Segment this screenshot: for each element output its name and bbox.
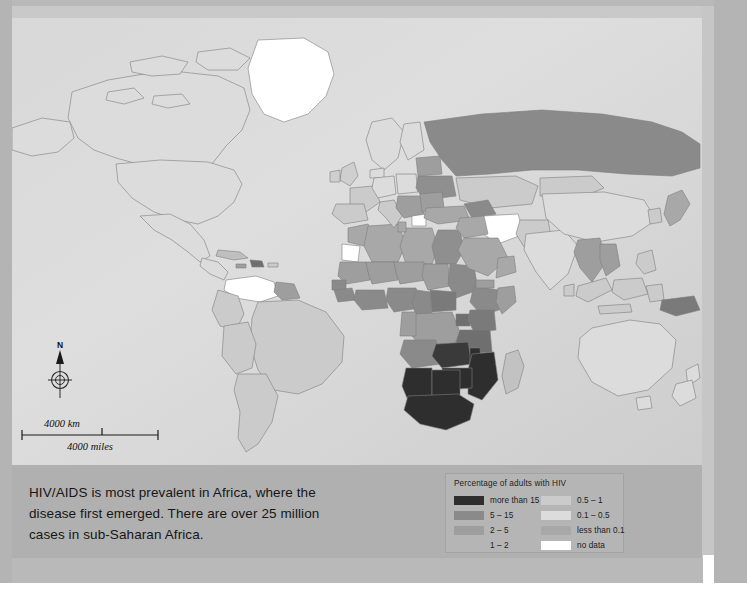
country-sri-lanka xyxy=(564,284,574,296)
legend-item: 0.5 – 1 xyxy=(541,493,625,507)
legend-label: 2 – 5 xyxy=(490,526,509,535)
legend-item: no data xyxy=(541,538,625,552)
country-western-sahara xyxy=(342,244,360,262)
country-chad xyxy=(422,264,450,290)
legend-swatch xyxy=(541,541,571,550)
country-kenya xyxy=(468,310,496,332)
island-jamaica xyxy=(236,264,246,268)
island-java xyxy=(598,304,632,314)
country-botswana xyxy=(432,370,460,396)
caption-line-1: HIV/AIDS is most prevalent in Africa, wh… xyxy=(29,482,369,503)
legend-swatch xyxy=(541,511,571,520)
legend-swatch xyxy=(454,526,484,535)
legend-item: 5 – 15 xyxy=(454,508,539,522)
frame-right-outer xyxy=(714,0,747,583)
country-tasmania xyxy=(636,396,652,410)
country-guinea xyxy=(334,288,356,302)
country-poland xyxy=(396,174,418,194)
country-central-african-rep xyxy=(430,290,456,312)
legend-title: Percentage of adults with HIV xyxy=(454,479,566,488)
legend-swatch xyxy=(454,496,484,505)
country-niger xyxy=(394,262,426,284)
page-bottom-margin xyxy=(0,583,747,597)
scale-km-label: 4000 km xyxy=(44,418,80,429)
island-hispaniola xyxy=(250,260,264,267)
legend-label: more than 15 xyxy=(490,496,539,505)
country-ireland xyxy=(330,170,340,182)
page-right-notch xyxy=(703,555,714,597)
legend-label: less than 0.1 xyxy=(577,526,625,535)
legend-label: 0.1 – 0.5 xyxy=(577,511,610,520)
country-denmark xyxy=(370,168,384,178)
legend-label: 1 – 2 xyxy=(490,541,509,550)
frame-left-edge xyxy=(0,0,12,583)
country-gabon-congo xyxy=(400,312,416,336)
frame-right-edge xyxy=(702,6,714,558)
caption-text: HIV/AIDS is most prevalent in Africa, wh… xyxy=(29,482,369,545)
caption-line-2: disease first emerged. There are over 25… xyxy=(29,503,369,524)
caption-line-3: cases in sub-Saharan Africa. xyxy=(29,524,369,545)
legend-item: more than 15 xyxy=(454,493,539,507)
legend-swatch xyxy=(541,496,571,505)
legend-column-right: 0.5 – 1 0.1 – 0.5 less than 0.1 no data xyxy=(541,493,625,553)
legend-item: 0.1 – 0.5 xyxy=(541,508,625,522)
legend-item: 2 – 5 xyxy=(454,523,539,537)
frame-top-edge xyxy=(12,6,714,18)
country-tunisia xyxy=(398,222,406,232)
compass-north-label: N xyxy=(57,340,63,350)
country-mali xyxy=(366,262,398,284)
legend-column-left: more than 15 5 – 15 2 – 5 1 – 2 xyxy=(454,493,539,553)
scale-miles-label: 4000 miles xyxy=(67,441,113,452)
legend-item: less than 0.1 xyxy=(541,523,625,537)
country-greece xyxy=(412,214,426,226)
map-page: N 4000 km 4000 miles HIV/AIDS is most pr… xyxy=(0,0,747,597)
country-belarus-baltics xyxy=(416,156,442,176)
legend-label: 0.5 – 1 xyxy=(577,496,603,505)
country-senegal xyxy=(332,280,346,290)
country-eritrea xyxy=(476,280,494,288)
legend-swatch xyxy=(454,511,484,520)
legend-item: 1 – 2 xyxy=(454,538,539,552)
legend-swatch xyxy=(454,541,484,550)
island-puerto-rico xyxy=(268,263,278,267)
legend-label: 5 – 15 xyxy=(490,511,513,520)
world-map-svg: N 4000 km 4000 miles xyxy=(12,18,702,465)
country-korea xyxy=(648,208,662,224)
legend-swatch xyxy=(541,526,571,535)
map-legend: Percentage of adults with HIV more than … xyxy=(445,473,624,553)
world-map: N 4000 km 4000 miles xyxy=(12,18,702,465)
legend-label: no data xyxy=(577,541,605,550)
